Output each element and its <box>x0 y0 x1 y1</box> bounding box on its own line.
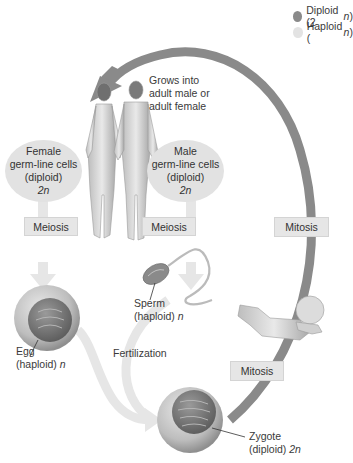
meiosis-box-female: Meiosis <box>24 217 78 236</box>
female-germ-line-cells: Female germ-line cells (diploid) 2n <box>5 140 82 202</box>
cell-ploidy-var: n <box>178 310 184 322</box>
male-germ-line-cells: Male germ-line cells (diploid) 2n <box>147 140 224 202</box>
legend-item-haploid: Haploid (n) <box>293 24 353 40</box>
grow-line: Grows into <box>149 74 210 87</box>
cell-ploidy-text: (diploid) <box>249 443 289 455</box>
diploid-swatch-icon <box>293 11 302 22</box>
ploidy-label: 2n <box>180 184 192 197</box>
cell-name: Egg <box>16 345 66 358</box>
oval-line: germ-line cells <box>10 158 78 171</box>
adult-female-figure <box>86 83 122 238</box>
haploid-swatch-icon <box>293 27 303 38</box>
fertilization-label: Fertilization <box>113 347 167 360</box>
cell-ploidy-var: n <box>60 358 66 370</box>
sperm-label: Sperm (haploid) n <box>134 297 184 323</box>
grows-into-label: Grows into adult male or adult female <box>149 74 210 113</box>
meiosis-box-male: Meiosis <box>142 217 196 236</box>
grow-line: adult female <box>149 100 210 113</box>
mitosis-box-upper: Mitosis <box>274 217 329 237</box>
cell-name: Zygote <box>249 430 301 443</box>
oval-line: (diploid) <box>25 171 62 184</box>
cell-ploidy-var: 2n <box>289 443 301 455</box>
oval-line: Female <box>26 145 61 158</box>
legend-close: ) <box>349 26 353 38</box>
legend-close: ) <box>349 10 353 22</box>
oval-line: Male <box>174 145 197 158</box>
ploidy-label: 2n <box>38 184 50 197</box>
grow-line: adult male or <box>149 87 210 100</box>
oval-line: (diploid) <box>167 171 204 184</box>
cell-name: Sperm <box>134 297 184 310</box>
zygote-label: Zygote (diploid) 2n <box>249 430 301 456</box>
oval-line: germ-line cells <box>152 158 220 171</box>
cell-ploidy-text: (haploid) <box>16 358 60 370</box>
egg-label: Egg (haploid) n <box>16 345 66 371</box>
baby-figure <box>238 296 324 340</box>
mitosis-box-lower: Mitosis <box>230 361 284 381</box>
cell-ploidy-text: (haploid) <box>134 310 178 322</box>
legend: Diploid (2n) Haploid (n) <box>293 8 353 40</box>
legend-label: Haploid ( <box>307 20 344 44</box>
